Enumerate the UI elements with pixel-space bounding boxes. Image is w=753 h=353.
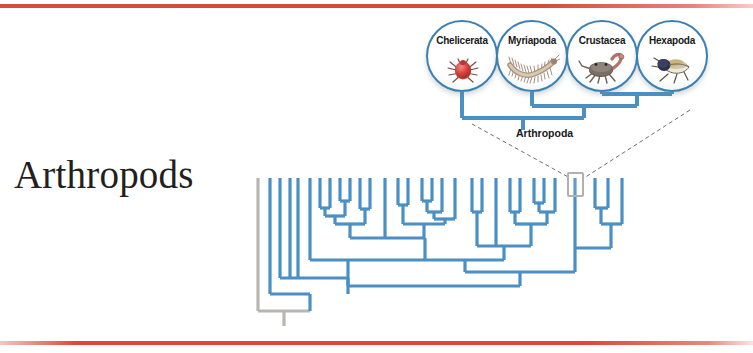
beetle-illustration-icon <box>644 50 700 86</box>
taxon-label: Hexapoda <box>649 35 695 46</box>
taxon-label: Myriapoda <box>508 35 556 46</box>
centipede-illustration-icon <box>504 50 560 86</box>
top-accent-rule <box>0 4 753 8</box>
taxon-crustacea[interactable]: Crustacea <box>566 20 638 92</box>
taxon-myriapoda[interactable]: Myriapoda <box>496 20 568 92</box>
focus-highlight-box[interactable] <box>567 172 584 197</box>
arthropoda-root-label: Arthropoda <box>516 127 573 139</box>
taxon-chelicerata[interactable]: Chelicerata <box>426 20 498 92</box>
tick-illustration-icon <box>434 50 490 86</box>
bottom-accent-rule <box>0 341 753 345</box>
taxon-hexapoda[interactable]: Hexapoda <box>636 20 708 92</box>
crab-illustration-icon <box>574 50 630 86</box>
taxon-label: Chelicerata <box>436 35 488 46</box>
arthropoda-callout: Chelicerata Myriapoda <box>420 14 740 146</box>
main-cladogram <box>250 168 650 340</box>
page-title: Arthropods <box>14 152 194 197</box>
figure-panel: Arthropods <box>0 0 753 353</box>
taxon-label: Crustacea <box>579 35 626 46</box>
